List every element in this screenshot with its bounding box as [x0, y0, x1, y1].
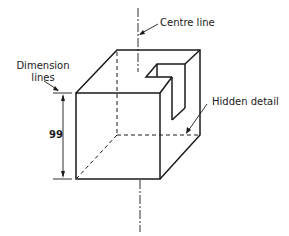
centre-leader-arrow-icon [139, 30, 145, 35]
slot-top-outline [146, 64, 185, 77]
centre-line-label: Centre line [160, 17, 215, 29]
technical-drawing: Centre line Dimension lines Hidden detai… [0, 0, 289, 236]
slot-back-diagonal [185, 50, 200, 64]
arrow-up-icon [61, 94, 65, 101]
hidden-leader-line [188, 104, 207, 131]
slot-front-diagonal [160, 77, 172, 93]
dimension-lines-label-line2: lines [15, 72, 71, 84]
dimension-lines-label-line1: Dimension [15, 60, 71, 72]
hidden-bottom-left-diagonal [77, 135, 117, 178]
leader-arrow-icon [53, 86, 59, 91]
hidden-detail-label: Hidden detail [212, 96, 279, 108]
dimension-value: 99 [49, 129, 63, 141]
cube-drawing [0, 0, 289, 236]
slot-bottom-diagonal [172, 108, 185, 120]
arrow-down-icon [61, 171, 65, 178]
